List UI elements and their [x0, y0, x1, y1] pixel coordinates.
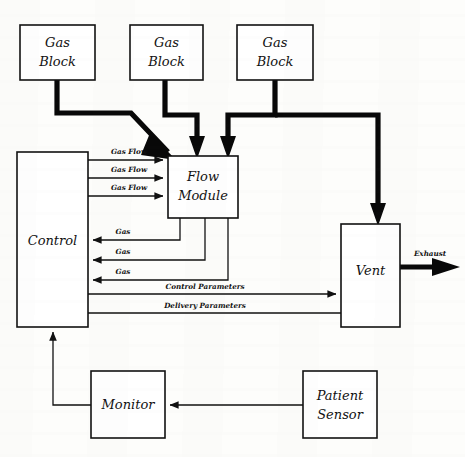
flow-module-label-line2: Module: [177, 188, 228, 203]
node-flow-module[interactable]: Flow Module: [168, 156, 238, 218]
node-control[interactable]: Control: [17, 152, 88, 327]
node-monitor[interactable]: Monitor: [91, 371, 165, 438]
edge-label-delivery-parameters: Delivery Parameters: [163, 301, 246, 310]
node-gas-block-3[interactable]: Gas Block: [237, 25, 313, 80]
edge-label-gas-flow-2: Gas Flow: [111, 165, 148, 174]
node-patient-sensor[interactable]: Patient Sensor: [303, 371, 377, 438]
gas-block-3-label-line2: Block: [256, 54, 294, 69]
connection-flowmodule-to-control-2: [93, 218, 205, 260]
gas-block-1-label-line2: Block: [38, 54, 76, 69]
gas-block-1-rect[interactable]: [20, 25, 95, 80]
connection-gasblock3-to-vent: [275, 115, 386, 226]
monitor-label: Monitor: [101, 397, 156, 412]
connection-flowmodule-to-control-1: [93, 218, 180, 240]
edge-label-exhaust: Exhaust: [413, 249, 447, 258]
connection-gasblock3-to-flowmodule: [220, 80, 275, 159]
gas-block-3-rect[interactable]: [237, 25, 313, 80]
patient-sensor-rect[interactable]: [303, 371, 377, 438]
edge-label-gas-return-2: Gas: [116, 247, 131, 256]
gas-block-1-label-line1: Gas: [45, 35, 70, 50]
connection-gasblock2-to-flowmodule: [165, 80, 205, 159]
block-diagram: Gas Block Gas Block Gas Block Control Fl…: [0, 0, 465, 457]
gas-block-2-rect[interactable]: [130, 25, 203, 80]
connection-vent-to-exhaust: [400, 258, 460, 276]
edge-label-gas-return-3: Gas: [116, 267, 131, 276]
vent-label: Vent: [356, 263, 386, 278]
connection-flowmodule-to-control-3: [93, 218, 228, 280]
node-vent[interactable]: Vent: [341, 224, 400, 327]
patient-sensor-label-line1: Patient: [316, 388, 364, 403]
diagram-canvas: Gas Block Gas Block Gas Block Control Fl…: [0, 0, 465, 457]
flow-module-label-line1: Flow: [186, 169, 219, 184]
node-gas-block-1[interactable]: Gas Block: [20, 25, 95, 80]
gas-block-2-label-line1: Gas: [154, 35, 179, 50]
gas-block-3-label-line1: Gas: [263, 35, 288, 50]
edge-label-control-parameters: Control Parameters: [165, 282, 244, 291]
edge-label-gas-flow-1: Gas Flow: [111, 147, 148, 156]
patient-sensor-label-line2: Sensor: [317, 407, 363, 422]
node-gas-block-2[interactable]: Gas Block: [130, 25, 203, 80]
edge-label-gas-return-1: Gas: [116, 227, 131, 236]
connection-monitor-to-control: [53, 332, 91, 405]
edge-label-gas-flow-3: Gas Flow: [111, 183, 148, 192]
control-label: Control: [28, 233, 78, 248]
gas-block-2-label-line2: Block: [147, 54, 185, 69]
